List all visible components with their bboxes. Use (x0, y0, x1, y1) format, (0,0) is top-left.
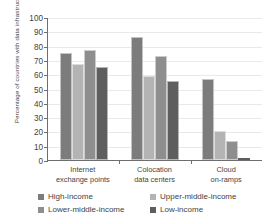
legend-swatch-icon (150, 207, 156, 213)
bar (238, 158, 250, 160)
x-axis-label: Internetexchange points (47, 165, 119, 184)
gridline (48, 161, 262, 162)
x-axis-label-line: exchange points (47, 175, 119, 185)
bar (143, 76, 155, 160)
bar-chart: Percentage of countries with data infras… (0, 0, 270, 224)
y-axis-title: Percentage of countries with data infras… (13, 0, 21, 126)
y-axis-tick-label: 20 (34, 128, 43, 137)
bar (96, 67, 108, 160)
y-axis-tick-label: 60 (34, 71, 43, 80)
legend-item[interactable]: Lower-middle-income (38, 205, 150, 215)
bar (155, 56, 167, 160)
y-axis-tick-label: 10 (34, 142, 43, 151)
legend-swatch-icon (38, 194, 44, 200)
x-axis-tick (191, 160, 192, 164)
x-axis-label: Colocationdata centers (119, 165, 191, 184)
legend-item[interactable]: Upper-middle-income (150, 192, 266, 202)
legend-item[interactable]: Low-income (150, 205, 266, 215)
x-axis-label-line: Internet (47, 165, 119, 175)
y-axis-tick-label: 50 (34, 85, 43, 94)
bar (84, 50, 96, 160)
x-axis-label-line: Colocation (119, 165, 191, 175)
legend-label: High-income (48, 192, 93, 202)
bar (167, 81, 179, 160)
y-axis-tick-label: 100 (29, 14, 43, 23)
x-axis-label-line: data centers (119, 175, 191, 185)
y-axis-tick (44, 161, 48, 162)
y-axis-tick-label: 0 (38, 157, 43, 166)
chart-legend: High-incomeUpper-middle-incomeLower-midd… (38, 192, 266, 215)
legend-swatch-icon (150, 194, 156, 200)
x-axis-label-line: Cloud (190, 165, 262, 175)
x-axis-labels: Internetexchange pointsColocationdata ce… (47, 165, 262, 184)
legend-label: Low-income (160, 205, 203, 215)
bar (60, 53, 72, 160)
y-axis-tick-label: 80 (34, 42, 43, 51)
bar-group (48, 18, 119, 160)
legend-item[interactable]: High-income (38, 192, 150, 202)
bar-groups (48, 18, 262, 160)
legend-label: Upper-middle-income (160, 192, 236, 202)
plot-area: 1009080706050403020100 (47, 18, 262, 161)
legend-label: Lower-middle-income (48, 205, 124, 215)
x-axis-tick (119, 160, 120, 164)
bar (202, 79, 214, 161)
bar (226, 141, 238, 160)
x-axis-label-line: on-ramps (190, 175, 262, 185)
y-axis-tick-label: 70 (34, 56, 43, 65)
bar-group (119, 18, 190, 160)
bar-group (191, 18, 262, 160)
bar (214, 131, 226, 160)
y-axis-tick-label: 90 (34, 28, 43, 37)
y-axis-tick-label: 40 (34, 99, 43, 108)
x-axis-label: Cloudon-ramps (190, 165, 262, 184)
legend-swatch-icon (38, 207, 44, 213)
y-axis-tick-label: 30 (34, 114, 43, 123)
bar (131, 37, 143, 160)
bar (72, 64, 84, 160)
